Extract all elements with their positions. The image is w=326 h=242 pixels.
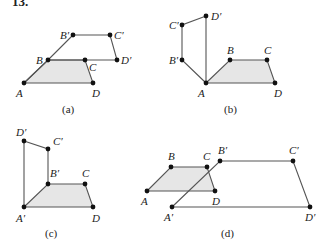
vertex-point <box>22 205 27 210</box>
vertex-label: A′ <box>163 211 174 223</box>
vertex-label: D <box>211 195 220 207</box>
vertex-label: B <box>227 44 234 56</box>
panel-caption: (c) <box>45 227 58 240</box>
vertex-point <box>204 81 209 86</box>
panel-caption: (a) <box>62 103 75 116</box>
vertex-label: D <box>91 212 100 224</box>
vertex-point <box>91 81 96 86</box>
vertex-point <box>308 205 313 210</box>
vertex-point <box>22 139 27 144</box>
vertex-point <box>228 58 233 63</box>
vertex-label: C′ <box>289 144 299 156</box>
vertex-label: C′ <box>169 19 179 31</box>
vertex-point <box>145 189 150 194</box>
vertex-point <box>115 58 120 63</box>
vertex-label: D <box>273 87 282 99</box>
vertex-label: B <box>168 150 175 162</box>
vertex-label: B <box>36 54 43 66</box>
vertex-label: D′ <box>304 211 316 223</box>
vertex-point <box>83 182 88 187</box>
vertex-label: C′ <box>53 135 63 147</box>
panel-caption: (b) <box>224 103 237 116</box>
vertex-label: D′ <box>120 54 132 66</box>
vertex-label: C <box>203 150 211 162</box>
vertex-point <box>46 182 51 187</box>
vertex-point <box>169 165 174 170</box>
vertex-label: D′ <box>15 126 27 138</box>
original-trapezoid <box>24 60 93 83</box>
vertex-point <box>291 159 296 164</box>
vertex-point <box>265 58 270 63</box>
vertex-point <box>170 205 175 210</box>
vertex-point <box>204 14 209 19</box>
vertex-label: D′ <box>210 10 222 22</box>
vertex-label: A <box>197 87 205 99</box>
vertex-point <box>71 33 76 38</box>
vertex-point <box>46 147 51 152</box>
vertex-point <box>273 81 278 86</box>
vertex-label: C <box>264 44 272 56</box>
vertex-label: A <box>15 87 23 99</box>
vertex-point <box>180 58 185 63</box>
vertex-label: C <box>82 167 90 179</box>
image-edge <box>73 35 117 60</box>
vertex-point <box>83 58 88 63</box>
vertex-point <box>22 81 27 86</box>
vertex-label: C′ <box>114 29 124 41</box>
vertex-point <box>46 58 51 63</box>
vertex-point <box>213 189 218 194</box>
vertex-point <box>108 33 113 38</box>
diagram-canvas: ABCDB′C′D′ABCDB′C′D′A′B′CDC′D′ABCDA′B′C′… <box>0 0 326 242</box>
shaded-trapezoids <box>24 60 275 207</box>
original-trapezoid <box>206 60 275 83</box>
vertex-point <box>205 165 210 170</box>
original-trapezoid <box>24 184 93 207</box>
vertex-label: B′ <box>169 54 179 66</box>
image-edge <box>182 16 206 83</box>
vertex-label: B′ <box>50 167 60 179</box>
vertex-label: B′ <box>60 29 70 41</box>
vertex-point <box>91 205 96 210</box>
vertex-point <box>180 23 185 28</box>
vertex-label: A′ <box>15 212 26 224</box>
vertex-label: A <box>140 195 148 207</box>
vertex-label: D <box>91 87 100 99</box>
vertex-label: B′ <box>218 144 228 156</box>
original-trapezoid <box>147 167 215 191</box>
panel-caption: (d) <box>221 227 234 240</box>
vertex-label: C <box>89 61 97 73</box>
vertex-point <box>218 159 223 164</box>
